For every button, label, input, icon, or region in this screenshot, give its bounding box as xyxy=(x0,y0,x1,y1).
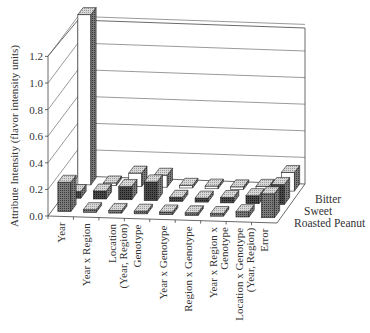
y-tick-label: 0.0 xyxy=(29,210,43,222)
category-label: Location x Genotype(Year, Region) xyxy=(233,228,257,321)
bar-roasted-peanut xyxy=(109,203,127,213)
legend-roasted-peanut: Roasted Peanut xyxy=(294,217,366,229)
category-label: Error xyxy=(258,228,270,252)
bar-roasted-peanut xyxy=(261,187,279,218)
category-label: Region x Genotype xyxy=(182,226,194,312)
y-tick-label: 1.2 xyxy=(29,50,43,62)
category-label: Year x Region xyxy=(80,223,92,287)
bar-roasted-peanut xyxy=(236,205,254,217)
bar-sweet xyxy=(119,179,137,199)
y-axis-tick-labels: 0.00.20.40.60.81.01.2 xyxy=(29,50,43,222)
legend: Bitter Sweet Roasted Peanut xyxy=(294,193,366,229)
bar-roasted-peanut xyxy=(185,206,203,216)
bars xyxy=(58,8,300,218)
bar-roasted-peanut xyxy=(211,207,229,217)
category-label: Year x Genotype xyxy=(157,225,169,299)
bar-roasted-peanut xyxy=(83,203,101,213)
y-tick-label: 1.0 xyxy=(29,77,43,89)
category-label: Location(Year, Region) xyxy=(106,223,130,288)
y-tick-label: 0.6 xyxy=(29,130,43,142)
bar-sweet xyxy=(221,191,239,203)
y-tick-label: 0.2 xyxy=(29,183,43,195)
bar-sweet xyxy=(195,191,213,202)
category-label: Genotype xyxy=(131,225,143,268)
y-axis-title: Attribute Intensity (flavor intensity un… xyxy=(8,45,21,227)
y-tick-label: 0.4 xyxy=(29,157,43,169)
legend-sweet: Sweet xyxy=(304,205,333,217)
y-tick-label: 0.8 xyxy=(29,104,43,116)
legend-bitter: Bitter xyxy=(315,193,341,205)
bar-roasted-peanut xyxy=(160,205,178,215)
category-label: Year x Region xGenotype xyxy=(207,227,230,299)
bar-sweet xyxy=(144,175,162,201)
category-label: Year xyxy=(55,222,67,243)
bar-roasted-peanut xyxy=(134,204,152,214)
bar-roasted-peanut xyxy=(58,175,76,211)
bar-sweet xyxy=(93,184,111,199)
bar-bitter xyxy=(78,8,96,185)
bar-sweet xyxy=(170,190,188,201)
chart: 0.00.20.40.60.81.01.2 Attribute Intensit… xyxy=(0,0,370,333)
category-labels: YearYear x RegionLocation(Year, Region)G… xyxy=(48,216,270,321)
